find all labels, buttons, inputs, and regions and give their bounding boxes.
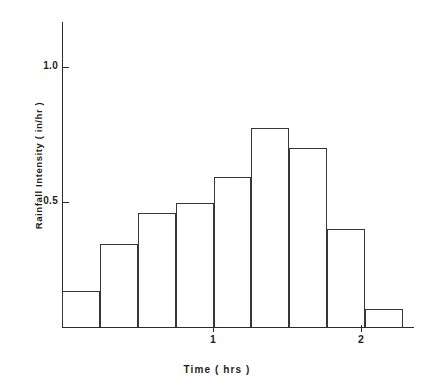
rainfall-hyetograph-chart: 1.0 0.5 1 2 Rainfall Intensity ( in/hr )…	[0, 0, 434, 387]
bar-7	[289, 148, 327, 327]
bar-6	[251, 128, 289, 327]
bar-3	[138, 213, 176, 327]
y-axis-title: Rainfall Intensity ( in/hr )	[33, 66, 44, 266]
x-axis-title: Time ( hrs )	[0, 364, 434, 375]
bar-4	[176, 203, 214, 327]
x-tick-label-2: 2	[351, 333, 371, 345]
y-tick-mark-0.5	[62, 202, 69, 203]
bar-9	[365, 309, 403, 327]
bar-1	[62, 291, 100, 327]
y-tick-mark-1.0	[62, 67, 69, 68]
bar-8	[327, 229, 365, 327]
bar-5	[214, 177, 252, 327]
x-tick-label-1: 1	[203, 333, 223, 345]
bar-2	[100, 244, 138, 327]
